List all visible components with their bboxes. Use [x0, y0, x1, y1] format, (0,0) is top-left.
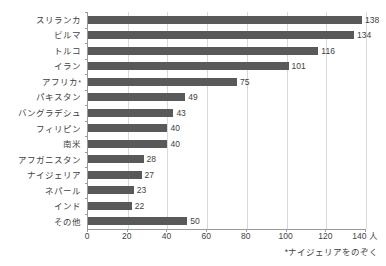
bar-value-label: 28	[147, 155, 156, 164]
category-label: パキスタン	[0, 90, 84, 106]
chart-title	[0, 0, 386, 5]
value-tick-label: 140 人	[352, 232, 378, 241]
category-label: バングラデシュ	[0, 105, 84, 121]
category-label-text: ナイジェリア	[27, 171, 81, 180]
category-tick-mark	[85, 90, 88, 91]
bar	[88, 109, 173, 117]
bar-value-label: 138	[365, 16, 379, 25]
bar-row: 50	[88, 214, 365, 230]
value-tick-label: 0	[85, 232, 90, 241]
gridline	[366, 12, 367, 229]
category-label-text: その他	[54, 218, 81, 227]
category-label: 南米	[0, 137, 84, 153]
category-label-text: フィリピン	[36, 125, 81, 134]
category-tick-mark	[85, 136, 88, 137]
plot-area: 13813411610175494340402827232250	[87, 12, 365, 230]
value-tick-label: 40	[162, 232, 171, 241]
category-label: トルコ	[0, 43, 84, 59]
bar	[88, 140, 167, 148]
category-label-text: バングラデシュ	[18, 109, 81, 118]
bar-value-label: 49	[188, 93, 197, 102]
bar	[88, 202, 132, 210]
bar-value-label: 134	[357, 31, 371, 40]
bar-value-label: 75	[240, 78, 249, 87]
bar-row: 40	[88, 121, 365, 137]
category-label: インド	[0, 199, 84, 215]
bar	[88, 47, 318, 55]
category-tick-mark	[85, 59, 88, 60]
bar-row: 28	[88, 152, 365, 168]
bar	[88, 186, 134, 194]
bar-row: 43	[88, 105, 365, 121]
value-tick-label: 100	[278, 232, 292, 241]
value-axis-labels: 020406080100120140 人	[87, 232, 373, 244]
category-tick-mark	[85, 12, 88, 13]
bar-row: 116	[88, 43, 365, 59]
category-axis-labels: スリランカビルマトルコイランアフリカ*パキスタンバングラデシュフィリピン南米アフ…	[0, 12, 84, 230]
category-label-text: パキスタン	[36, 93, 81, 102]
bar-row: 22	[88, 198, 365, 214]
bar	[88, 93, 185, 101]
bar-row: 27	[88, 167, 365, 183]
category-label-text: アフリカ	[42, 78, 78, 87]
category-label: スリランカ	[0, 12, 84, 28]
category-tick-mark	[85, 74, 88, 75]
category-label-text: インド	[54, 202, 81, 211]
bar-row: 49	[88, 90, 365, 106]
bar	[88, 78, 237, 86]
bar-value-label: 22	[135, 202, 144, 211]
value-tick-label: 60	[201, 232, 210, 241]
category-tick-mark	[85, 198, 88, 199]
bar	[88, 155, 144, 163]
bar	[88, 62, 289, 70]
bar-rows: 13813411610175494340402827232250	[88, 12, 365, 229]
bar-value-label: 23	[137, 186, 146, 195]
category-tick-mark	[85, 105, 88, 106]
bar-value-label: 40	[170, 124, 179, 133]
category-label-asterisk: *	[78, 79, 81, 86]
category-label-text: トルコ	[54, 47, 81, 56]
category-tick-mark	[85, 183, 88, 184]
bar	[88, 16, 362, 24]
bar-row: 40	[88, 136, 365, 152]
bar-value-label: 50	[190, 217, 199, 226]
category-label: フィリピン	[0, 121, 84, 137]
category-label: ネパール	[0, 183, 84, 199]
category-tick-mark	[85, 152, 88, 153]
category-tick-mark	[85, 28, 88, 29]
category-label-text: ビルマ	[54, 31, 81, 40]
category-label: アフリカ*	[0, 74, 84, 90]
category-label-text: イラン	[54, 62, 81, 71]
category-label: ナイジェリア	[0, 168, 84, 184]
bar-row: 23	[88, 183, 365, 199]
bar-value-label: 116	[321, 47, 335, 56]
category-label-text: ネパール	[45, 187, 81, 196]
bar	[88, 171, 142, 179]
category-label: イラン	[0, 59, 84, 75]
chart-footnote: *ナイジェリアをのぞく	[285, 248, 378, 257]
bar-value-label: 27	[145, 171, 154, 180]
bar-row: 134	[88, 28, 365, 44]
category-tick-mark	[85, 214, 88, 215]
category-tick-mark	[85, 43, 88, 44]
bar	[88, 31, 354, 39]
category-label-text: 南米	[63, 140, 81, 149]
category-label-text: スリランカ	[36, 16, 81, 25]
value-tick-label: 80	[241, 232, 250, 241]
bar	[88, 217, 187, 225]
bar-value-label: 101	[292, 62, 306, 71]
category-label: ビルマ	[0, 28, 84, 44]
bar-value-label: 43	[176, 109, 185, 118]
category-tick-mark	[85, 121, 88, 122]
bar-row: 101	[88, 59, 365, 75]
category-label-text: アフガニスタン	[18, 156, 81, 165]
category-tick-mark	[85, 167, 88, 168]
bar-row: 75	[88, 74, 365, 90]
value-tick-label: 20	[122, 232, 131, 241]
category-label: その他	[0, 215, 84, 231]
value-tick-label: 120	[318, 232, 332, 241]
bar-chart: スリランカビルマトルコイランアフリカ*パキスタンバングラデシュフィリピン南米アフ…	[0, 0, 386, 266]
category-label: アフガニスタン	[0, 152, 84, 168]
bar	[88, 124, 167, 132]
bar-value-label: 40	[170, 140, 179, 149]
